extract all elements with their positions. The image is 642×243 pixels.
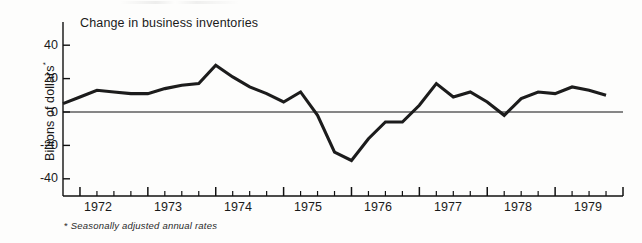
y-tick-label-group: 40 20 0 -20 -40 bbox=[0, 0, 58, 243]
x-tick-label: 1973 bbox=[133, 200, 203, 214]
chart-figure: Billions of dollars* Change in business … bbox=[0, 0, 642, 243]
x-tick-label: 1975 bbox=[273, 200, 343, 214]
plot-title: Change in business inventories bbox=[80, 16, 258, 30]
x-major-tick-marks bbox=[80, 187, 623, 196]
footnote-marker: * bbox=[64, 220, 68, 231]
x-tick-label: 1978 bbox=[483, 200, 553, 214]
x-tick-label: 1976 bbox=[343, 200, 413, 214]
y-tick-label: 40 bbox=[24, 39, 58, 51]
y-tick-label: 0 bbox=[24, 106, 58, 118]
y-tick-label: 20 bbox=[24, 72, 58, 84]
footnote-text: Seasonally adjusted annual rates bbox=[71, 220, 217, 231]
x-tick-label: 1974 bbox=[203, 200, 273, 214]
data-series-line bbox=[63, 65, 606, 160]
y-tick-label: -40 bbox=[24, 172, 58, 184]
footnote: * Seasonally adjusted annual rates bbox=[64, 220, 217, 231]
x-tick-label: 1977 bbox=[413, 200, 483, 214]
x-tick-label: 1972 bbox=[63, 200, 133, 214]
y-tick-label: -20 bbox=[24, 139, 58, 151]
y-tick-marks bbox=[63, 45, 70, 179]
x-tick-label: 1979 bbox=[553, 200, 623, 214]
